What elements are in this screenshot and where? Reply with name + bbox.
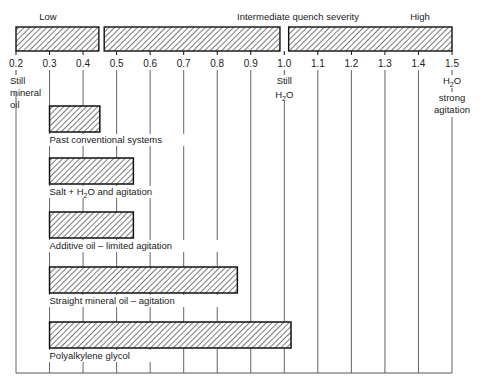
bar-label: Past conventional systems	[50, 134, 163, 145]
label-high: High	[410, 11, 430, 22]
bar-label: Straight mineral oil – agitation	[50, 295, 175, 306]
severity-segment	[289, 27, 452, 51]
tick-label: 0.5	[110, 58, 124, 69]
label-intermediate: Intermediate quench severity	[237, 11, 359, 22]
severity-segment	[16, 27, 99, 51]
bar-group: Polyalkylene glycol	[49, 322, 291, 362]
bar-label: Polyalkylene glycol	[50, 350, 130, 361]
label-low: Low	[39, 11, 57, 22]
bars: Past conventional systemsSalt + H2O and …	[49, 106, 291, 362]
bar-label: Additive oil – limited agitation	[50, 240, 173, 251]
tick-label: 0.3	[43, 58, 57, 69]
bar-group: Salt + H2O and agitation	[49, 158, 182, 199]
severity-scale-labels: LowIntermediate quench severityHigh	[39, 11, 429, 22]
bar	[50, 212, 134, 238]
still-water-formula: H2O	[275, 89, 293, 102]
tick-label: 1.0	[277, 58, 291, 69]
tick-label: 0.4	[76, 58, 90, 69]
tick-label: 1.2	[344, 58, 358, 69]
tick-label: 0.6	[143, 58, 157, 69]
still-oil-label: mineral	[10, 87, 41, 98]
tick-label: 1.5	[445, 58, 459, 69]
quench-severity-chart: LowIntermediate quench severityHigh 0.20…	[0, 0, 483, 389]
tick-label: 1.4	[412, 58, 426, 69]
bar	[50, 106, 100, 132]
still-oil-label: oil	[10, 99, 20, 110]
tick-label: 0.9	[244, 58, 258, 69]
bar-group: Additive oil – limited agitation	[49, 212, 225, 252]
bar	[50, 322, 291, 348]
tick-label: 0.7	[177, 58, 191, 69]
tick-label: 0.8	[210, 58, 224, 69]
bar	[50, 267, 238, 293]
still-oil-label: Still	[10, 75, 25, 86]
severity-scale-band	[16, 27, 452, 51]
severity-segment	[104, 27, 280, 51]
strong-water-formula: H2O	[443, 75, 461, 88]
bar-group: Straight mineral oil – agitation	[49, 267, 238, 307]
tick-label: 0.2	[9, 58, 23, 69]
still-water-label: Still	[277, 75, 292, 86]
agitation-label: agitation	[434, 104, 470, 115]
tick-label: 1.1	[311, 58, 325, 69]
x-axis-ticks: 0.20.30.40.50.60.70.80.91.01.11.21.31.41…	[9, 51, 459, 69]
strong-label: strong	[439, 92, 465, 103]
bar	[50, 158, 134, 184]
bar-group: Past conventional systems	[49, 106, 188, 146]
tick-label: 1.3	[378, 58, 392, 69]
